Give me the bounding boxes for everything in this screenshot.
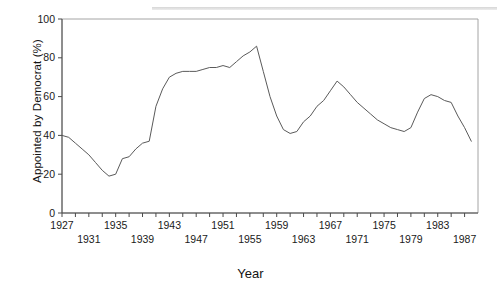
x-tick-label: 1987 [453, 233, 477, 245]
axes-group: 020406080100 192719351943195119591967197… [37, 13, 478, 245]
x-axis-ticks [62, 213, 465, 217]
x-tick-label: 1963 [292, 233, 316, 245]
x-tick-label: 1927 [50, 219, 74, 231]
x-tick-label: 1955 [238, 233, 262, 245]
y-tick-label: 80 [43, 51, 55, 63]
y-tick-label: 60 [43, 90, 55, 102]
x-tick-label: 1931 [77, 233, 101, 245]
y-tick-label: 20 [43, 168, 55, 180]
y-axis-title: Appointed by Democrat (%) [31, 11, 43, 211]
x-tick-label: 1971 [346, 233, 370, 245]
x-tick-label: 1943 [158, 219, 182, 231]
x-tick-label: 1951 [211, 219, 235, 231]
x-tick-label: 1979 [399, 233, 423, 245]
y-tick-label: 40 [43, 129, 55, 141]
x-axis-tick-labels: 1927193519431951195919671975198319311939… [50, 219, 476, 245]
x-tick-label: 1983 [426, 219, 450, 231]
x-tick-label: 1935 [104, 219, 128, 231]
data-series-line [62, 46, 471, 176]
x-tick-label: 1947 [185, 233, 209, 245]
x-tick-label: 1975 [372, 219, 396, 231]
line-chart-figure: 020406080100 192719351943195119591967197… [0, 0, 501, 296]
x-tick-label: 1967 [319, 219, 343, 231]
chart-plot-area: 020406080100 192719351943195119591967197… [0, 0, 501, 296]
y-tick-label: 0 [49, 207, 55, 219]
y-axis-ticks [58, 19, 62, 213]
x-tick-label: 1959 [265, 219, 289, 231]
x-tick-label: 1939 [131, 233, 155, 245]
x-axis-title: Year [0, 266, 501, 281]
